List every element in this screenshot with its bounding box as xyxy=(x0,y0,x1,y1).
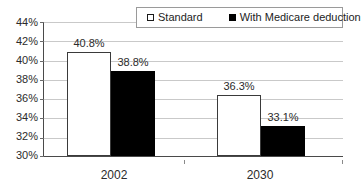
bar-standard-2030[interactable] xyxy=(217,95,261,156)
y-tick-label: 40% xyxy=(4,55,38,66)
chart-legend: Standard With Medicare deduction xyxy=(136,7,343,28)
x-tick-label-2002: 2002 xyxy=(64,168,164,182)
y-tick-label: 32% xyxy=(4,131,38,142)
x-axis-divider xyxy=(184,160,185,164)
y-axis-tick xyxy=(40,99,44,100)
y-axis-tick xyxy=(40,138,44,139)
bar-medicare-2030[interactable] xyxy=(261,126,305,156)
legend-entry-standard[interactable]: Standard xyxy=(147,12,203,23)
y-axis-tick xyxy=(40,41,44,42)
bar-standard-2002[interactable] xyxy=(67,52,111,156)
legend-hollow-square-icon xyxy=(147,14,154,21)
plot-area: 40.8% 38.8% 36.3% 33.1% xyxy=(43,22,343,157)
y-axis-tick xyxy=(40,80,44,81)
y-tick-label: 44% xyxy=(4,17,38,28)
y-tick-label: 36% xyxy=(4,93,38,104)
y-axis: 44% 42% 40% 38% 36% 34% 32% 30% xyxy=(0,0,38,191)
data-label-standard-2002: 40.8% xyxy=(65,38,113,49)
y-tick-label: 42% xyxy=(4,36,38,47)
y-axis-tick xyxy=(40,22,44,23)
data-label-medicare-2002: 38.8% xyxy=(109,57,157,68)
bar-medicare-2002[interactable] xyxy=(111,71,155,156)
legend-solid-square-icon xyxy=(229,14,236,21)
data-label-medicare-2030: 33.1% xyxy=(259,112,307,123)
x-axis-divider xyxy=(342,160,343,164)
y-axis-tick xyxy=(40,156,44,157)
y-tick-label: 30% xyxy=(4,150,38,161)
legend-label-standard: Standard xyxy=(158,12,203,23)
x-axis: 2002 2030 xyxy=(43,160,343,188)
legend-entry-medicare[interactable]: With Medicare deduction xyxy=(229,12,361,23)
y-tick-label: 38% xyxy=(4,74,38,85)
y-axis-tick xyxy=(40,61,44,62)
x-tick-label-2030: 2030 xyxy=(210,168,310,182)
data-label-standard-2030: 36.3% xyxy=(215,81,263,92)
legend-label-medicare: With Medicare deduction xyxy=(240,12,361,23)
y-tick-label: 34% xyxy=(4,112,38,123)
y-axis-tick xyxy=(40,118,44,119)
